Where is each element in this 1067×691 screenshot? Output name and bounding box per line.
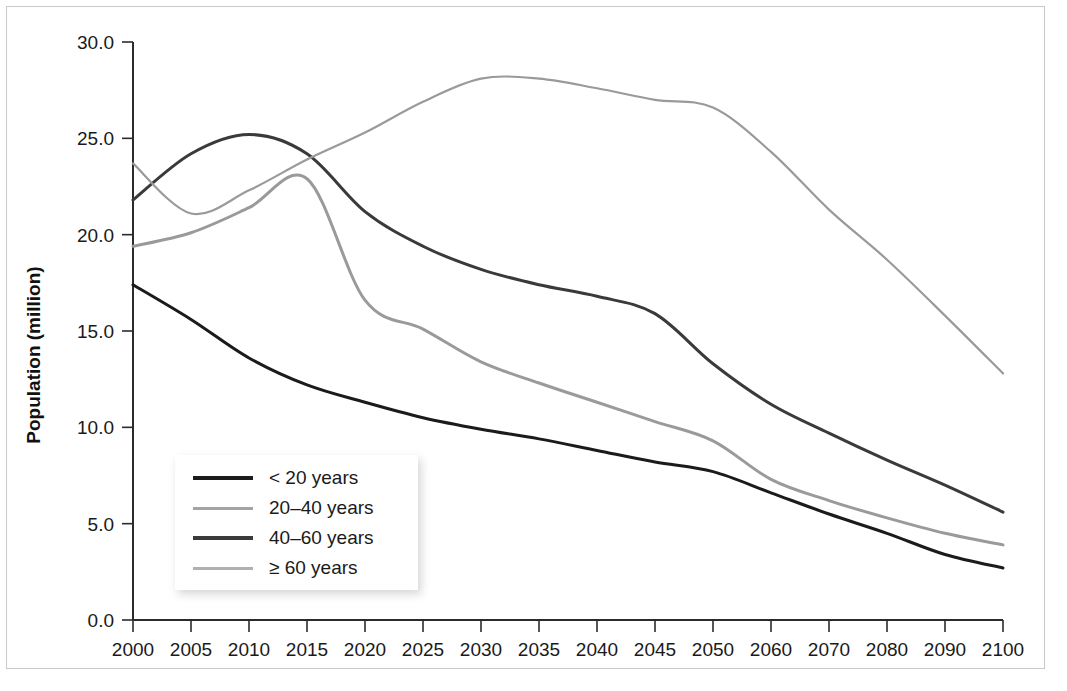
x-tick-label: 2060: [750, 639, 792, 660]
y-tick-label: 25.0: [77, 128, 114, 149]
y-tick-label: 30.0: [77, 32, 114, 53]
legend-item: 20–40 years: [175, 493, 418, 523]
x-axis: 2000200520102015202020252030203520402045…: [112, 620, 1024, 660]
legend-label: ≥ 60 years: [269, 557, 358, 579]
x-tick-label: 2020: [344, 639, 386, 660]
x-tick-label: 2080: [866, 639, 908, 660]
legend-items: < 20 years20–40 years40–60 years≥ 60 yea…: [175, 463, 418, 583]
legend-line-swatch: [193, 567, 253, 570]
line-chart: 0.05.010.015.020.025.030.0 2000200520102…: [0, 0, 1067, 691]
x-tick-label: 2035: [518, 639, 560, 660]
y-tick-label: 10.0: [77, 417, 114, 438]
x-tick-label: 2070: [808, 639, 850, 660]
legend-label: < 20 years: [269, 467, 358, 489]
legend-line-swatch: [193, 536, 253, 540]
y-tick-label: 0.0: [88, 610, 114, 631]
plot-area: 0.05.010.015.020.025.030.0 2000200520102…: [0, 0, 1067, 691]
x-tick-label: 2050: [692, 639, 734, 660]
x-tick-label: 2005: [170, 639, 212, 660]
legend: < 20 years20–40 years40–60 years≥ 60 yea…: [175, 455, 418, 590]
legend-label: 20–40 years: [269, 497, 374, 519]
legend-line-swatch: [193, 507, 253, 510]
x-tick-label: 2090: [924, 639, 966, 660]
series-line-3: [133, 76, 1003, 373]
x-tick-label: 2010: [228, 639, 270, 660]
legend-item: < 20 years: [175, 463, 418, 493]
x-tick-label: 2040: [576, 639, 618, 660]
x-tick-label: 2045: [634, 639, 676, 660]
legend-line-swatch: [193, 476, 253, 480]
x-tick-label: 2000: [112, 639, 154, 660]
y-tick-label: 20.0: [77, 225, 114, 246]
y-tick-label: 5.0: [88, 514, 114, 535]
legend-label: 40–60 years: [269, 527, 374, 549]
legend-item: ≥ 60 years: [175, 553, 418, 583]
figure-container: 0.05.010.015.020.025.030.0 2000200520102…: [0, 0, 1067, 691]
y-axis-title: Population (million): [23, 266, 44, 443]
x-tick-label: 2025: [402, 639, 444, 660]
x-tick-label: 2100: [982, 639, 1024, 660]
legend-item: 40–60 years: [175, 523, 418, 553]
x-tick-label: 2015: [286, 639, 328, 660]
x-tick-label: 2030: [460, 639, 502, 660]
y-tick-label: 15.0: [77, 321, 114, 342]
y-axis: 0.05.010.015.020.025.030.0: [77, 32, 133, 631]
